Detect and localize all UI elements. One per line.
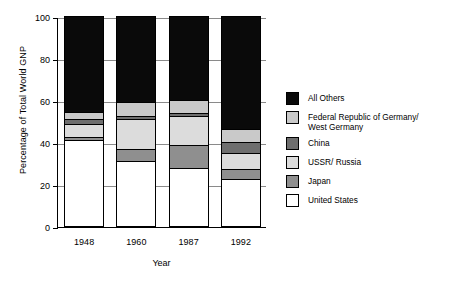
y-axis-tick: [53, 60, 58, 61]
legend-item[interactable]: Federal Republic of Germany/ West German…: [286, 111, 451, 132]
bar-segment: [116, 119, 156, 150]
legend-item[interactable]: United States: [286, 194, 451, 208]
bar-segment: [221, 169, 261, 179]
bar-segment: [221, 129, 261, 143]
y-axis-title: Percentage of Total World GNP: [18, 10, 32, 210]
y-axis-tick: [53, 18, 58, 19]
plot-inner: 0204060801001948196019871992: [58, 18, 266, 227]
plot-area: 0204060801001948196019871992: [57, 18, 266, 228]
y-axis-tick-label: 60: [40, 97, 50, 107]
bar-segment: [169, 100, 209, 114]
legend-swatch: [286, 92, 299, 105]
x-axis-title: Year: [57, 258, 266, 268]
y-axis-tick-label: 80: [40, 55, 50, 65]
x-axis-tick-label: 1987: [159, 237, 219, 247]
x-axis-tick-label: 1992: [211, 237, 271, 247]
legend-label: United States: [308, 194, 358, 205]
y-axis-tick: [53, 144, 58, 145]
bar-segment: [116, 161, 156, 227]
legend-item[interactable]: China: [286, 137, 451, 151]
y-axis-tick: [53, 102, 58, 103]
legend-label: USSR/ Russia: [308, 156, 361, 167]
x-axis-tick-label: 1948: [54, 237, 114, 247]
y-axis-tick-label: 20: [40, 181, 50, 191]
chart-figure: Percentage of Total World GNP 0204060801…: [0, 0, 451, 287]
bar-segment: [64, 124, 104, 138]
legend-item[interactable]: USSR/ Russia: [286, 156, 451, 170]
legend-item[interactable]: All Others: [286, 92, 451, 106]
bar-segment: [64, 140, 104, 227]
bar-segment: [221, 142, 261, 154]
bar-segment: [64, 16, 104, 113]
legend-item[interactable]: Japan: [286, 175, 451, 189]
bar-segment: [221, 153, 261, 171]
bar-1992[interactable]: 1992: [221, 18, 261, 227]
bar-1960[interactable]: 1960: [116, 18, 156, 227]
y-axis-tick: [53, 228, 58, 229]
y-axis-tick-label: 100: [35, 13, 50, 23]
legend-swatch: [286, 111, 299, 124]
legend-label: Federal Republic of Germany/ West German…: [308, 111, 419, 132]
x-axis-tick-label: 1960: [106, 237, 166, 247]
bar-segment: [116, 149, 156, 162]
y-axis-tick-label: 40: [40, 139, 50, 149]
bar-segment: [169, 145, 209, 169]
bar-segment: [169, 16, 209, 101]
bar-1987[interactable]: 1987: [169, 18, 209, 227]
chart-legend: All OthersFederal Republic of Germany/ W…: [286, 92, 451, 213]
bar-segment: [169, 168, 209, 227]
bar-segment: [169, 116, 209, 146]
legend-swatch: [286, 194, 299, 207]
legend-swatch: [286, 175, 299, 188]
bar-1948[interactable]: 1948: [64, 18, 104, 227]
y-axis-tick: [53, 186, 58, 187]
bar-segment: [221, 179, 261, 227]
bar-segment: [64, 112, 104, 120]
legend-swatch: [286, 156, 299, 169]
legend-label: China: [308, 137, 330, 148]
bar-segment: [116, 16, 156, 103]
legend-label: All Others: [308, 92, 344, 103]
legend-swatch: [286, 137, 299, 150]
bar-segment: [116, 102, 156, 117]
bar-segment: [221, 16, 261, 130]
y-axis-tick-label: 0: [45, 223, 50, 233]
legend-label: Japan: [308, 175, 331, 186]
